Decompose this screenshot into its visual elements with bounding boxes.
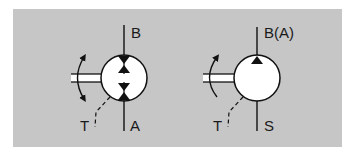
drain-label-t: T [213,117,222,134]
hydraulic-symbols-diagram: B A T B(A) S T [0,0,355,153]
drive-shaft [71,74,102,82]
drive-shaft [203,74,235,82]
port-label-a: A [130,117,140,134]
port-label-b-a: B(A) [264,24,294,41]
port-label-b: B [131,24,141,41]
drain-label-t: T [80,117,89,134]
port-label-s: S [264,117,274,134]
